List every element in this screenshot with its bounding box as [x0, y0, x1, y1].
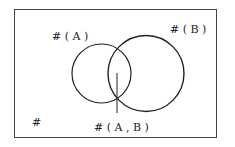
label-a: # ( A )	[52, 30, 88, 43]
venn-diagram: # ( A ) # ( B ) # ( A , B ) #	[0, 0, 235, 147]
label-b: # ( B )	[170, 23, 206, 36]
label-ab: # ( A , B )	[94, 121, 149, 134]
circle-a	[72, 44, 131, 103]
label-universe: #	[32, 116, 41, 129]
circle-b	[108, 36, 184, 112]
